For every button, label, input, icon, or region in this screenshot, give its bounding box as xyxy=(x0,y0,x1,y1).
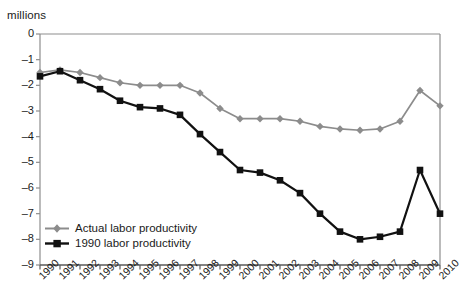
data-series xyxy=(37,68,444,243)
y-tick-label: –6 xyxy=(8,181,34,193)
y-tick-label: –9 xyxy=(8,258,34,270)
y-tick-label: –1 xyxy=(8,53,34,65)
y-tick-label: –8 xyxy=(8,232,34,244)
y-tick-label: –2 xyxy=(8,78,34,90)
legend-marker-square-icon xyxy=(44,236,70,251)
y-tick-label: 0 xyxy=(8,27,34,39)
legend-marker-diamond-icon xyxy=(44,221,70,236)
legend-label: Actual labor productivity xyxy=(75,221,197,236)
data-series xyxy=(36,66,443,134)
y-tick-label: –4 xyxy=(8,130,34,142)
chart-legend: Actual labor productivity 1990 labor pro… xyxy=(44,221,197,251)
y-tick-label: –7 xyxy=(8,207,34,219)
y-tick-label: –3 xyxy=(8,104,34,116)
y-tick-label: –5 xyxy=(8,155,34,167)
legend-item-1990-labor-productivity: 1990 labor productivity xyxy=(44,236,197,251)
legend-label: 1990 labor productivity xyxy=(75,236,191,251)
chart-container: millions 0–1–2–3–4–5–6–7–8–9 19901991199… xyxy=(0,0,462,302)
legend-item-actual-labor-productivity: Actual labor productivity xyxy=(44,221,197,236)
